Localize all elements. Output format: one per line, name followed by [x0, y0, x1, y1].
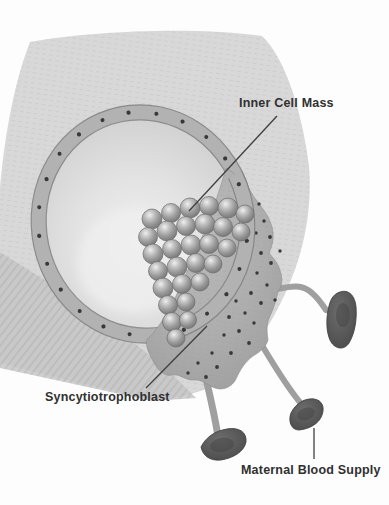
villus-leg-right: [263, 347, 302, 405]
label-inner-cell-mass: Inner Cell Mass: [239, 96, 334, 110]
illustration-page: Inner Cell Mass Syncytiotrophoblast Mate…: [0, 0, 389, 505]
illustration-canvas: [0, 0, 389, 505]
villus-arm-right: [277, 286, 326, 310]
label-syncytiotrophoblast: Syncytiotrophoblast: [45, 390, 170, 404]
villus-leg-left: [207, 383, 218, 436]
label-maternal-blood-supply: Maternal Blood Supply: [241, 463, 381, 477]
